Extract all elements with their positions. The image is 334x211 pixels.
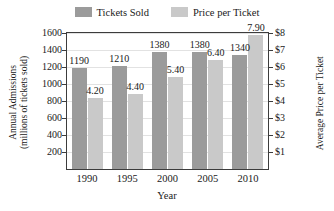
y-axis-right-tick-label: $7 [275, 45, 301, 55]
y-axis-left-tick-mark [62, 118, 66, 119]
y-axis-right-tick-mark [269, 118, 273, 119]
y-axis-left-tick-label: 400 [28, 130, 62, 140]
bar-price-per-ticket-2005 [208, 60, 223, 169]
bar-value-label: 1190 [62, 56, 96, 66]
legend-swatch-tickets-sold [75, 7, 92, 17]
y-axis-right-tick-mark [269, 101, 273, 102]
y-axis-left-tick-label: 200 [28, 147, 62, 157]
y-axis-left-tick-label: 1400 [28, 45, 62, 55]
legend-label-price-per-ticket: Price per Ticket [193, 7, 260, 18]
gridline [67, 33, 268, 34]
y-axis-left-tick-mark [62, 67, 66, 68]
y-axis-left-tick-mark [62, 84, 66, 85]
y-axis-right-tick-label: $6 [275, 62, 301, 72]
y-axis-left-tick-mark [62, 50, 66, 51]
y-axis-left-tick-mark [62, 101, 66, 102]
y-axis-right-tick-label: $8 [275, 28, 301, 38]
bar-value-label: 4.40 [118, 82, 152, 92]
legend-entry-tickets-sold: Tickets Sold [75, 7, 149, 18]
bar-tickets-sold-2010 [232, 55, 247, 169]
y-axis-right-tick-label: $2 [275, 130, 301, 140]
bar-price-per-ticket-1995 [128, 94, 143, 169]
bar-tickets-sold-1990 [72, 68, 87, 169]
y-axis-left-title: Annual Admissions (millions of tickets s… [8, 33, 29, 173]
y-axis-left-tick-mark [62, 152, 66, 153]
bar-price-per-ticket-1990 [88, 98, 103, 169]
y-axis-left-title-line2: (millions of tickets sold) [18, 33, 29, 173]
bar-value-label: 1380 [143, 40, 177, 50]
y-axis-left-tick-label: 600 [28, 113, 62, 123]
x-axis-tick-label-2005: 2005 [188, 173, 228, 184]
legend-entry-price-per-ticket: Price per Ticket [171, 7, 260, 18]
chart-legend: Tickets Sold Price per Ticket [0, 2, 334, 22]
y-axis-right-tick-mark [269, 50, 273, 51]
y-axis-left-tick-label: 1000 [28, 79, 62, 89]
y-axis-left-tick-label: 800 [28, 96, 62, 106]
bar-chart: Tickets Sold Price per Ticket Annual Adm… [0, 0, 334, 211]
y-axis-right-tick-mark [269, 135, 273, 136]
bar-value-label: 1340 [223, 43, 257, 53]
y-axis-right-tick-mark [269, 67, 273, 68]
y-axis-left-tick-label: 1200 [28, 62, 62, 72]
y-axis-right-tick-label: $3 [275, 113, 301, 123]
bar-price-per-ticket-2010 [248, 35, 263, 169]
bar-value-label: 7.90 [239, 23, 273, 33]
bar-price-per-ticket-2000 [168, 77, 183, 169]
y-axis-right-tick-label: $4 [275, 96, 301, 106]
y-axis-right-tick-mark [269, 84, 273, 85]
legend-swatch-price-per-ticket [171, 7, 188, 17]
y-axis-left-title-line1: Annual Admissions [8, 33, 19, 173]
y-axis-right-tick-mark [269, 33, 273, 34]
y-axis-left-tick-label: 1600 [28, 28, 62, 38]
x-axis-tick-label-2000: 2000 [148, 173, 188, 184]
y-axis-left-tick-mark [62, 33, 66, 34]
x-axis-tick-label-2010: 2010 [228, 173, 268, 184]
y-axis-right-tick-mark [269, 152, 273, 153]
x-axis-title: Year [0, 190, 334, 201]
y-axis-right-title: Average Price per Ticket [315, 33, 326, 173]
y-axis-right-tick-label: $1 [275, 147, 301, 157]
bar-tickets-sold-2005 [192, 52, 207, 169]
x-axis-tick-label-1995: 1995 [107, 173, 147, 184]
bar-value-label: 5.40 [159, 65, 193, 75]
bar-value-label: 1210 [102, 54, 136, 64]
legend-label-tickets-sold: Tickets Sold [97, 7, 149, 18]
bar-value-label: 4.20 [78, 86, 112, 96]
x-axis-tick-label-1990: 1990 [67, 173, 107, 184]
y-axis-right-tick-label: $5 [275, 79, 301, 89]
y-axis-left-tick-mark [62, 135, 66, 136]
